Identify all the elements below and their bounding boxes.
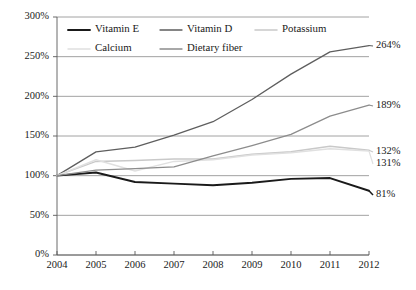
y-axis-label: 150% [25, 129, 50, 140]
legend-label-potassium: Potassium [282, 22, 327, 34]
y-axis-labels: 0%50%100%150%200%250%300% [25, 10, 50, 259]
series-end-label: 81% [376, 188, 396, 199]
chart-legend: Vitamin EVitamin DPotassiumCalciumDietar… [68, 22, 327, 53]
data-series-lines [57, 46, 369, 191]
series-end-label: 132% [376, 145, 401, 156]
x-axis-labels: 200420052006200720082009201020112012 [47, 259, 380, 270]
y-axis-label: 250% [25, 50, 50, 61]
series-end-label: 131% [376, 157, 401, 168]
end-leader-line [369, 151, 373, 164]
legend-label-vitamin-d: Vitamin D [187, 22, 232, 34]
legend-label-calcium: Calcium [95, 41, 132, 53]
x-axis-label: 2007 [164, 259, 185, 270]
series-end-label: 189% [376, 99, 401, 110]
x-axis-label: 2004 [47, 259, 69, 270]
y-axis-label: 0% [35, 248, 49, 259]
series-end-label: 264% [376, 39, 401, 50]
end-leader-line [369, 191, 373, 195]
y-axis-label: 200% [25, 90, 50, 101]
y-axis-label: 50% [30, 209, 50, 220]
x-axis-label: 2005 [86, 259, 107, 270]
x-axis-label: 2010 [281, 259, 302, 270]
series-line-dietary-fiber [57, 105, 369, 176]
x-tick-marks [57, 251, 369, 255]
chart-container: 0%50%100%150%200%250%300% 20042005200620… [0, 0, 416, 290]
legend-label-vitamin-e: Vitamin E [95, 22, 139, 34]
x-axis-label: 2006 [125, 259, 146, 270]
series-line-vitamin-e [57, 172, 369, 190]
legend-label-dietary-fiber: Dietary fiber [187, 41, 243, 53]
y-axis-label: 100% [25, 169, 50, 180]
x-axis-label: 2011 [320, 259, 341, 270]
x-axis-label: 2009 [242, 259, 263, 270]
series-line-calcium [57, 149, 369, 176]
x-axis-label: 2012 [359, 259, 380, 270]
x-axis-label: 2008 [203, 259, 224, 270]
line-chart: 0%50%100%150%200%250%300% 20042005200620… [0, 0, 416, 290]
y-tick-marks [53, 17, 57, 255]
series-end-labels: 81%264%132%131%189% [369, 39, 401, 199]
end-leader-line [369, 105, 373, 106]
y-axis-label: 300% [25, 10, 50, 21]
